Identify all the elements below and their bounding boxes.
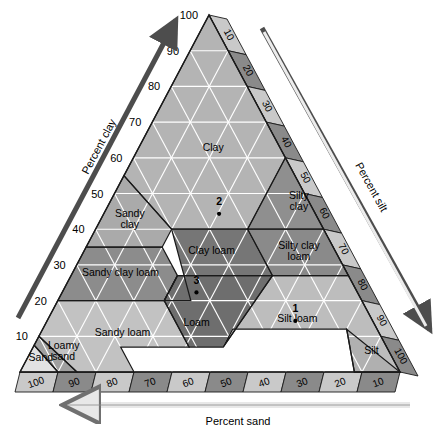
sand-axis-band: 100908070605040302010 [15, 372, 400, 392]
class-label: Sandy loam [95, 326, 151, 338]
sample-point-label: 2 [216, 195, 222, 207]
class-label: Clay [203, 141, 225, 153]
soil-texture-triangle-figure: 102030405060708090100 100908070605040302… [0, 0, 447, 431]
class-label: Silt [364, 344, 379, 356]
clay-axis-tick: 30 [53, 259, 65, 271]
sample-point-marker[interactable] [293, 319, 297, 323]
sample-point-label: 1 [292, 302, 298, 314]
clay-axis-tick: 60 [110, 152, 122, 164]
clay-axis-tick: 80 [148, 80, 160, 92]
class-label: Siltyclay [289, 189, 310, 213]
clay-axis-tick: 40 [72, 223, 84, 235]
sample-point-marker[interactable] [194, 290, 198, 294]
sample-point-label: 3 [194, 274, 200, 286]
class-label: Sand [29, 351, 54, 363]
class-label: Loam [183, 316, 210, 328]
clay-axis-tick: 100 [180, 9, 198, 21]
clay-axis-tick: 70 [129, 116, 141, 128]
class-label: Clay loam [188, 244, 235, 256]
clay-axis-tick: 10 [16, 330, 28, 342]
clay-axis-tick: 90 [167, 45, 179, 57]
clay-axis-tick: 20 [35, 295, 47, 307]
class-label: Sandy clay loam [82, 266, 159, 278]
clay-axis-tick: 50 [91, 188, 103, 200]
sample-point-marker[interactable] [217, 212, 221, 216]
percent-sand-axis-title: Percent sand [206, 415, 271, 427]
